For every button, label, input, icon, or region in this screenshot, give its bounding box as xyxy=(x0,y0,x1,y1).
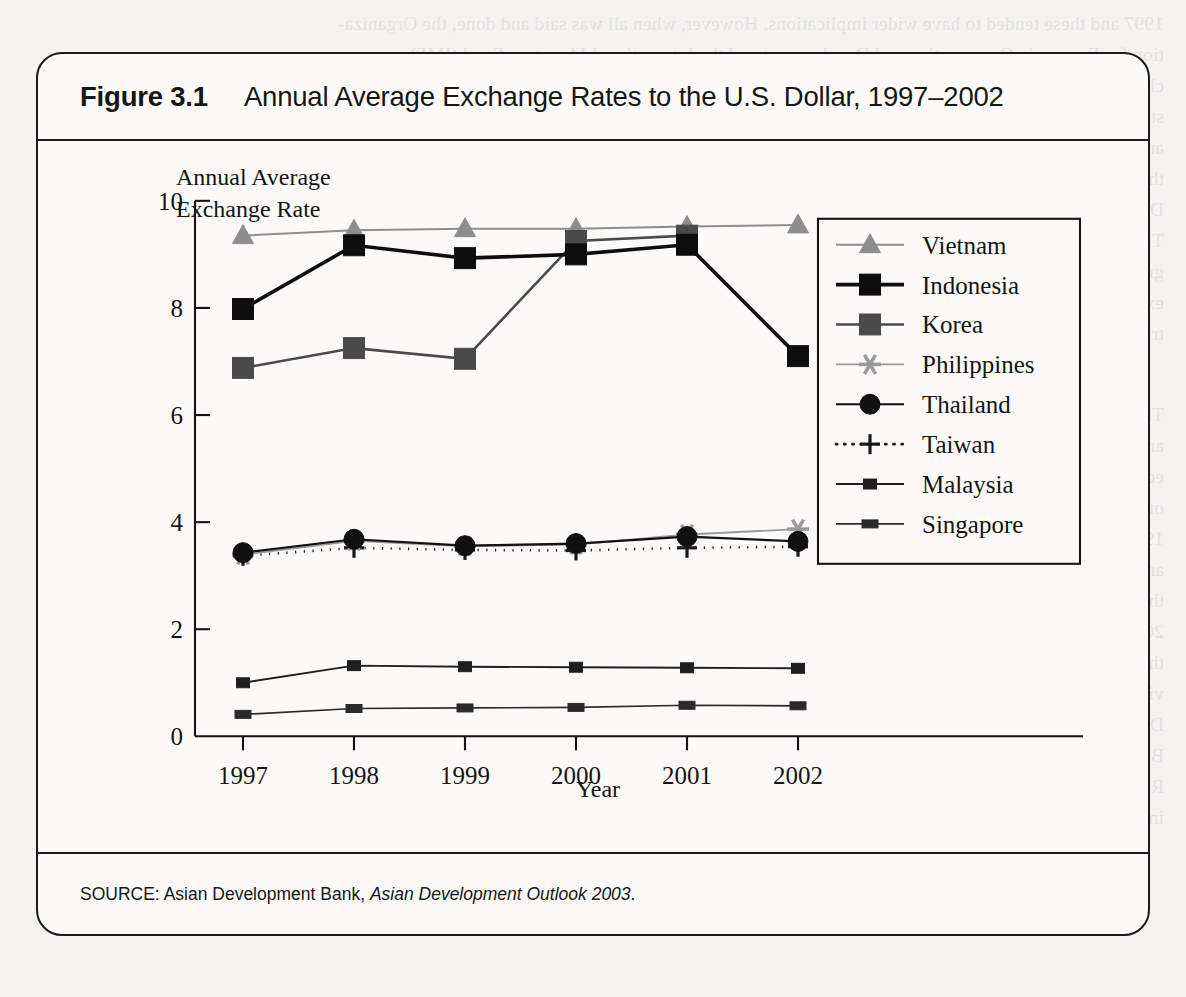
y-tick-label: 0 xyxy=(170,723,183,750)
legend-swatch-marker xyxy=(864,479,877,489)
data-point xyxy=(344,529,364,549)
series-group xyxy=(232,214,809,718)
figure-number: Figure 3.1 xyxy=(80,81,208,113)
series-philippines xyxy=(232,520,809,565)
data-point xyxy=(455,248,476,269)
series-line xyxy=(243,225,798,236)
y-axis-label-line2: Exchange Rate xyxy=(176,196,321,222)
y-tick-label: 10 xyxy=(158,188,183,215)
x-tick-label: 1997 xyxy=(218,762,268,789)
data-point xyxy=(681,663,694,673)
legend-label-korea: Korea xyxy=(922,311,983,338)
data-point xyxy=(788,531,808,551)
series-line xyxy=(243,547,798,556)
legend-swatch-marker xyxy=(862,520,878,528)
series-singapore xyxy=(235,701,806,718)
data-point xyxy=(566,244,587,265)
series-malaysia xyxy=(237,661,805,688)
legend-label-indonesia: Indonesia xyxy=(922,272,1019,299)
data-point xyxy=(457,704,473,712)
figure-source: SOURCE: Asian Development Bank, Asian De… xyxy=(38,852,1148,934)
tick-labels-group: 0246810199719981999200020012002 xyxy=(158,188,823,789)
series-taiwan xyxy=(233,537,808,566)
bleed-line: 1997 and these tended to have wider impl… xyxy=(338,8,1164,39)
legend: VietnamIndonesiaKoreaPhilippinesThailand… xyxy=(818,219,1080,564)
x-tick-label: 1999 xyxy=(440,762,490,789)
x-tick-label: 1998 xyxy=(329,762,379,789)
y-tick-label: 8 xyxy=(170,295,183,322)
data-point xyxy=(679,701,695,709)
x-tick-label: 2002 xyxy=(773,762,823,789)
source-suffix: . xyxy=(631,884,636,905)
data-point xyxy=(346,704,362,712)
series-line xyxy=(243,666,798,683)
legend-swatch-marker xyxy=(860,274,881,295)
data-point xyxy=(455,536,475,556)
data-point xyxy=(792,663,805,673)
x-tick-label: 2001 xyxy=(662,762,712,789)
y-tick-label: 4 xyxy=(170,509,183,536)
data-point xyxy=(344,338,365,359)
data-point xyxy=(233,225,254,244)
y-axis-label-line1: Annual Average xyxy=(176,164,331,190)
source-publication: Asian Development Outlook 2003 xyxy=(370,884,631,905)
data-point xyxy=(233,299,254,320)
data-point xyxy=(237,678,250,688)
data-point xyxy=(233,357,254,378)
legend-label-taiwan: Taiwan xyxy=(922,431,996,458)
data-point xyxy=(348,661,361,671)
data-point xyxy=(677,234,698,255)
data-point xyxy=(568,703,584,711)
data-point xyxy=(455,218,476,237)
y-tick-label: 6 xyxy=(170,402,183,429)
data-point xyxy=(788,346,809,367)
source-prefix: SOURCE: Asian Development Bank, xyxy=(80,884,365,905)
data-point xyxy=(570,662,583,672)
line-chart: Annual Average Exchange Rate 02468101997… xyxy=(38,141,1148,852)
data-point xyxy=(677,527,697,547)
y-tick-label: 2 xyxy=(170,616,183,643)
legend-label-philippines: Philippines xyxy=(922,351,1034,378)
plot-area: Annual Average Exchange Rate 02468101997… xyxy=(38,141,1148,852)
figure-title-band: Figure 3.1 Annual Average Exchange Rates… xyxy=(38,54,1148,141)
series-line xyxy=(243,705,798,714)
legend-swatch-marker xyxy=(860,314,881,335)
legend-label-thailand: Thailand xyxy=(922,391,1011,418)
data-point xyxy=(344,235,365,256)
data-point xyxy=(455,348,476,369)
data-point xyxy=(788,214,809,233)
data-point xyxy=(233,543,253,563)
data-point xyxy=(235,710,251,718)
legend-label-singapore: Singapore xyxy=(922,511,1023,538)
figure-title: Annual Average Exchange Rates to the U.S… xyxy=(244,81,1004,113)
data-point xyxy=(459,662,472,672)
x-axis-label: Year xyxy=(576,776,620,802)
data-point xyxy=(566,534,586,554)
legend-label-vietnam: Vietnam xyxy=(922,232,1007,259)
legend-label-malaysia: Malaysia xyxy=(922,471,1014,498)
figure-container: Figure 3.1 Annual Average Exchange Rates… xyxy=(36,52,1150,936)
legend-swatch-marker xyxy=(860,394,880,414)
data-point xyxy=(790,702,806,710)
